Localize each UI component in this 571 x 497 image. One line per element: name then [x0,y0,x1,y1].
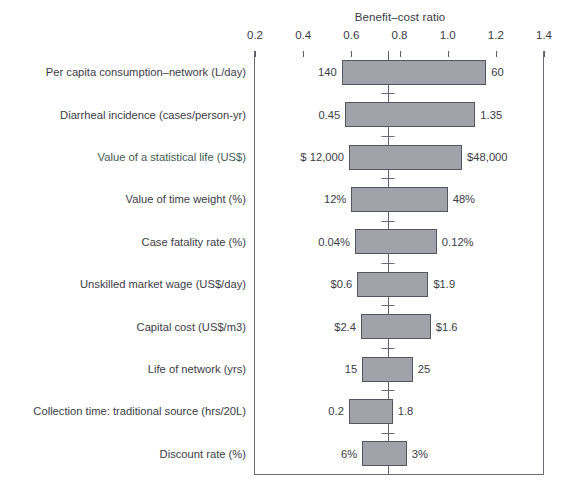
row-high-value: 25 [418,362,430,376]
row-category-label: Discount rate (%) [0,447,246,461]
row-high-value: 0.12% [442,235,474,249]
x-tick-label-0.2: 0.2 [247,29,263,41]
row-high-value: 60 [491,65,503,79]
x-tick-mark [351,51,352,57]
row-high-value: 48% [453,192,475,206]
tornado-bar [342,60,487,85]
x-tick-mark [496,51,497,57]
row-category-label: Per capita consumption–network (L/day) [0,65,246,79]
x-axis-tick-labels: 0.20.40.60.81.01.21.4 [0,29,571,45]
row-category-label: Capital cost (US$/m3) [0,320,246,334]
baseline-minor-tick [381,433,394,434]
x-tick-mark [400,51,401,57]
row-category-label: Diarrheal incidence (cases/person-yr) [0,108,246,122]
row-category-label: Value of a statistical life (US$) [0,150,246,164]
tornado-bar [362,357,413,382]
baseline-minor-tick [381,221,394,222]
x-tick-label-1.2: 1.2 [488,29,504,41]
x-tick-mark [303,51,304,57]
x-tick-label-0.6: 0.6 [343,29,359,41]
row-high-value: $48,000 [467,150,507,164]
tornado-bar [355,229,437,254]
row-category-label: Unskilled market wage (US$/day) [0,277,246,291]
row-low-value: 140 [318,65,337,79]
row-category-label: Collection time: traditional source (hrs… [0,404,246,418]
chart-axis-title: Benefit–cost ratio [255,11,545,23]
row-low-value: 0.04% [318,235,350,249]
row-low-value: $2.4 [334,320,356,334]
baseline-minor-tick [381,93,394,94]
row-category-label: Life of network (yrs) [0,362,246,376]
row-high-value: 1.8 [398,404,414,418]
tornado-bar [361,314,431,339]
x-tick-label-1.4: 1.4 [536,29,552,41]
row-category-label: Value of time weight (%) [0,192,246,206]
tornado-bar [351,187,447,212]
row-high-value: 3% [412,447,428,461]
row-high-value: $1.6 [436,320,458,334]
row-category-label: Case fatality rate (%) [0,235,246,249]
x-tick-label-0.8: 0.8 [392,29,408,41]
x-tick-mark [255,51,256,57]
tornado-chart-figure: Benefit–cost ratio 0.20.40.60.81.01.21.4… [0,0,571,497]
baseline-minor-tick [381,305,394,306]
row-low-value: $0.6 [331,277,353,291]
row-low-value: 0.45 [319,108,341,122]
baseline-minor-tick [381,136,394,137]
row-high-value: 1.35 [480,108,502,122]
row-low-value: 12% [324,192,346,206]
row-low-value: 6% [341,447,357,461]
row-low-value: 15 [345,362,357,376]
tornado-bar [357,272,428,297]
baseline-minor-tick [381,178,394,179]
tornado-bar [349,145,462,170]
baseline-minor-tick [381,263,394,264]
row-low-value: 0.2 [328,404,344,418]
tornado-bar [362,441,407,466]
x-tick-label-1.0: 1.0 [440,29,456,41]
row-low-value: $ 12,000 [300,150,344,164]
x-tick-label-0.4: 0.4 [295,29,311,41]
baseline-minor-tick [381,390,394,391]
x-tick-mark [448,51,449,57]
baseline-minor-tick [381,348,394,349]
tornado-bar [349,399,393,424]
x-tick-mark [544,51,545,57]
tornado-bar [345,102,475,127]
row-high-value: $1.9 [433,277,455,291]
